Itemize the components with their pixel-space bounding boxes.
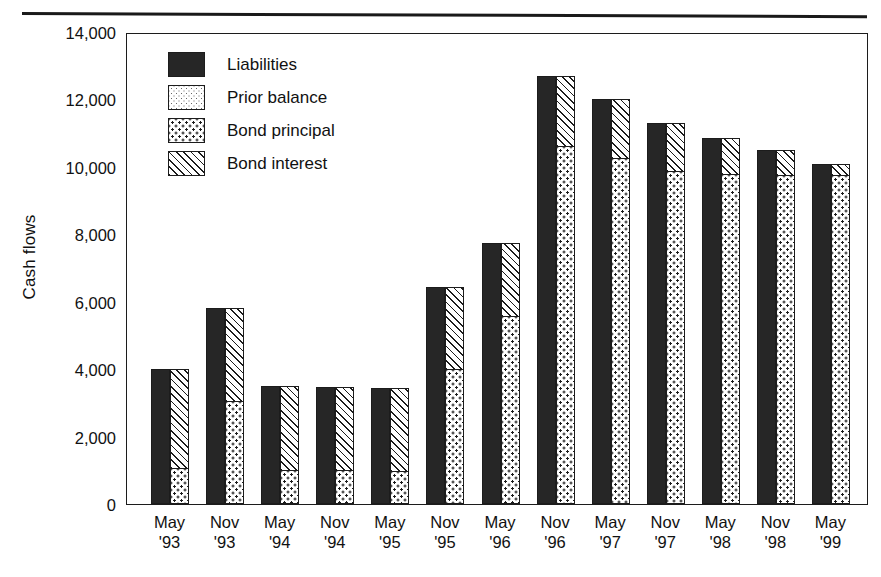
- x-tick-label: May'94: [251, 512, 309, 552]
- bar-liabilities: [206, 308, 225, 504]
- x-tick-label: May'99: [801, 512, 859, 552]
- bar-bond-stack: [611, 99, 630, 504]
- segment-bond-interest: [446, 288, 463, 370]
- segment-bond-principal: [171, 468, 188, 503]
- x-tick-label: Nov'98: [746, 512, 804, 552]
- x-tick-month: May: [581, 512, 639, 532]
- bar-bond-stack: [666, 123, 685, 504]
- x-tick-year: '98: [691, 532, 749, 552]
- x-tick-year: '96: [526, 532, 584, 552]
- x-tick-year: '99: [801, 532, 859, 552]
- bar-liabilities: [151, 369, 170, 504]
- segment-bond-principal: [667, 171, 684, 503]
- segment-bond-principal: [226, 401, 243, 503]
- x-tick-month: May: [251, 512, 309, 532]
- x-tick-label: Nov'94: [306, 512, 364, 552]
- legend-label: Bond principal: [227, 121, 335, 141]
- bar-bond-stack: [445, 287, 464, 504]
- bar-bond-stack: [556, 76, 575, 504]
- bar-bond-stack: [225, 308, 244, 504]
- segment-bond-interest: [722, 139, 739, 174]
- bar-liabilities: [426, 287, 445, 504]
- bar-bond-stack: [776, 150, 795, 504]
- legend-swatch-bond-interest: [168, 151, 205, 176]
- bar-liabilities: [371, 388, 390, 504]
- y-tick-label: 10,000: [30, 158, 116, 177]
- x-tick-month: Nov: [306, 512, 364, 532]
- bar-group: [482, 243, 520, 504]
- legend-label: Prior balance: [227, 88, 327, 108]
- bar-group: [537, 76, 575, 504]
- segment-bond-interest: [502, 244, 519, 317]
- segment-bond-principal: [557, 146, 574, 503]
- bar-liabilities: [316, 387, 335, 504]
- x-tick-month: May: [471, 512, 529, 532]
- bar-group: [647, 123, 685, 504]
- bar-group: [151, 369, 189, 504]
- segment-bond-principal: [777, 175, 794, 503]
- bar-liabilities: [592, 99, 611, 504]
- legend-item: Bond principal: [168, 114, 335, 147]
- legend-item: Prior balance: [168, 81, 335, 114]
- segment-bond-principal: [502, 316, 519, 503]
- bar-bond-stack: [831, 164, 850, 505]
- y-tick-label: 0: [30, 496, 116, 515]
- figure-top-rule: [22, 12, 867, 18]
- legend-label: Liabilities: [227, 55, 297, 75]
- segment-bond-interest: [612, 100, 629, 158]
- bar-bond-stack: [280, 386, 299, 504]
- bar-group: [261, 386, 299, 504]
- bar-bond-stack: [721, 138, 740, 504]
- segment-bond-principal: [391, 471, 408, 503]
- x-tick-label: May'96: [471, 512, 529, 552]
- segment-bond-interest: [336, 388, 353, 470]
- x-tick-month: May: [801, 512, 859, 532]
- legend-item: Liabilities: [168, 48, 335, 81]
- x-tick-year: '94: [251, 532, 309, 552]
- y-axis-title: Cash flows: [20, 167, 40, 347]
- y-tick-label: 4,000: [30, 361, 116, 380]
- segment-bond-interest: [391, 389, 408, 471]
- bar-group: [812, 164, 850, 505]
- bar-group: [316, 387, 354, 504]
- segment-bond-principal: [722, 174, 739, 503]
- segment-bond-principal: [281, 470, 298, 503]
- segment-bond-interest: [557, 77, 574, 146]
- x-tick-year: '94: [306, 532, 364, 552]
- bar-liabilities: [812, 164, 831, 505]
- legend-swatch-liabilities: [168, 52, 205, 77]
- bar-bond-stack: [170, 369, 189, 504]
- bar-group: [426, 287, 464, 504]
- legend-label: Bond interest: [227, 154, 327, 174]
- x-tick-month: Nov: [196, 512, 254, 532]
- x-tick-month: May: [141, 512, 199, 532]
- segment-bond-interest: [226, 309, 243, 401]
- x-tick-month: Nov: [746, 512, 804, 532]
- figure: Cash flows 02,0004,0006,0008,00010,00012…: [0, 0, 881, 577]
- segment-bond-principal: [832, 175, 849, 503]
- bar-group: [206, 308, 244, 504]
- segment-bond-principal: [612, 158, 629, 503]
- y-tick-label: 6,000: [30, 293, 116, 312]
- x-tick-label: Nov'96: [526, 512, 584, 552]
- bar-bond-stack: [390, 388, 409, 504]
- x-tick-label: May'95: [361, 512, 419, 552]
- x-tick-month: May: [361, 512, 419, 532]
- legend: LiabilitiesPrior balanceBond principalBo…: [168, 48, 335, 180]
- x-tick-label: May'97: [581, 512, 639, 552]
- bar-group: [702, 138, 740, 504]
- x-tick-month: May: [691, 512, 749, 532]
- bar-liabilities: [647, 123, 666, 504]
- x-tick-label: May'93: [141, 512, 199, 552]
- y-tick-label: 14,000: [30, 24, 116, 43]
- bar-liabilities: [537, 76, 556, 504]
- legend-swatch-prior-balance: [168, 85, 205, 110]
- x-tick-label: May'98: [691, 512, 749, 552]
- segment-bond-interest: [281, 387, 298, 470]
- legend-swatch-bond-principal: [168, 118, 205, 143]
- x-tick-year: '93: [141, 532, 199, 552]
- bar-group: [592, 99, 630, 504]
- bar-group: [371, 388, 409, 504]
- segment-bond-interest: [777, 151, 794, 175]
- x-tick-year: '96: [471, 532, 529, 552]
